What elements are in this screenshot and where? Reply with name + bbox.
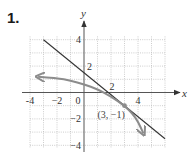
y-tick-label: 2: [87, 61, 92, 72]
y-tick-label: −2: [70, 113, 81, 124]
chart: xy -4−202442−2−4 (3, −1): [0, 0, 190, 153]
tangent-line: [44, 40, 166, 139]
y-tick-label: −4: [70, 140, 81, 151]
point-marker: [122, 103, 127, 108]
y-axis-label: y: [80, 7, 86, 19]
x-tick-label: 4: [136, 95, 141, 106]
x-tick-label: 2: [110, 81, 115, 92]
x-axis-label: x: [181, 87, 187, 99]
x-tick-label: 0: [76, 95, 81, 106]
point-label: (3, −1): [98, 109, 125, 121]
y-tick-label: 4: [76, 34, 81, 45]
x-tick-label: −2: [52, 95, 63, 106]
x-tick-label: -4: [26, 95, 34, 106]
